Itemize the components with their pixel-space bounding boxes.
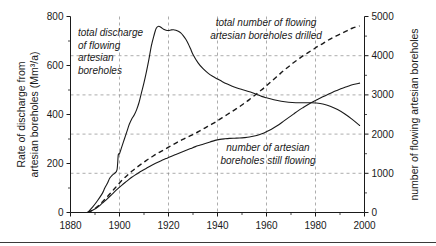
x-axis-tick-label: 1900 bbox=[108, 220, 131, 231]
artesian-boreholes-chart: 1880190019201940196019802000020040060080… bbox=[0, 0, 436, 246]
x-axis-tick-label: 1940 bbox=[206, 220, 229, 231]
y2-axis-tick-label: 4000 bbox=[372, 50, 395, 61]
y2-axis-tick-label: 0 bbox=[372, 207, 378, 218]
y2-axis-tick-label: 1000 bbox=[372, 168, 395, 179]
y2-axis-tick-label: 2000 bbox=[372, 129, 395, 140]
y2-axis-tick-label: 5000 bbox=[372, 11, 395, 22]
annotation-total-drilled: total number of flowingartesian borehole… bbox=[210, 17, 322, 41]
y-axis-tick-label: 200 bbox=[47, 158, 64, 169]
x-axis-tick-label: 2000 bbox=[353, 220, 376, 231]
series-line bbox=[88, 26, 360, 213]
y-axis-tick-label: 800 bbox=[47, 11, 64, 22]
x-axis-tick-label: 1960 bbox=[255, 220, 278, 231]
chart-figure: 1880190019201940196019802000020040060080… bbox=[0, 0, 436, 246]
data-series bbox=[88, 26, 360, 213]
x-axis-tick-label: 1880 bbox=[59, 220, 82, 231]
x-axis-tick-label: 1920 bbox=[157, 220, 180, 231]
y-axis-tick-label: 400 bbox=[47, 109, 64, 120]
series-line bbox=[88, 83, 360, 212]
x-axis-tick-label: 1980 bbox=[304, 220, 327, 231]
annotation-total-discharge: total dischargeof flowingartesianborehol… bbox=[78, 27, 143, 76]
annotation-still-flowing: number of artesianboreholes still flowin… bbox=[220, 142, 315, 166]
y-axis-tick-label: 600 bbox=[47, 60, 64, 71]
chart-annotations: total dischargeof flowingartesianborehol… bbox=[78, 17, 322, 166]
y2-axis-tick-label: 3000 bbox=[372, 89, 395, 100]
y2-axis-title: number of flowing artesian boreholes bbox=[408, 28, 420, 200]
y-axis-tick-label: 0 bbox=[58, 207, 64, 218]
series-line bbox=[88, 26, 360, 212]
y-axis-title: Rate of discharge fromartesian boreholes… bbox=[15, 51, 40, 177]
footer-divider bbox=[0, 242, 436, 243]
